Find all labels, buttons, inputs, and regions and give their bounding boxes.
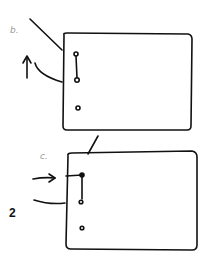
panel-c-curved-line (34, 200, 65, 204)
panel-c-circle-middle (79, 200, 83, 204)
diagram-canvas: b. c. 2 (0, 0, 208, 264)
step-number: 2 (9, 206, 16, 220)
panel-c-filled-dot (80, 173, 84, 177)
right-arrow-icon (33, 174, 55, 182)
panel-c-diagonal-line (88, 136, 98, 154)
panel-b (23, 19, 192, 130)
panel-b-circle-bottom (76, 106, 80, 110)
sketch-svg (0, 0, 208, 264)
up-arrow-icon (23, 56, 31, 78)
panel-c-rectangle (66, 151, 197, 250)
panel-c-label: c. (40, 151, 48, 161)
panel-c-circle-bottom (80, 226, 84, 230)
panel-c (33, 136, 197, 250)
panel-b-curved-line (35, 63, 62, 82)
panel-b-diagonal-line (30, 19, 62, 50)
panel-c-bent-connector (66, 175, 82, 199)
panel-b-connector-line (76, 56, 77, 78)
panel-b-rectangle (63, 33, 192, 130)
panel-b-label: b. (10, 25, 19, 35)
